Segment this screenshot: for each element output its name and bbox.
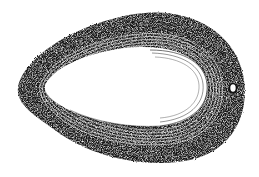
small-hole-icon bbox=[230, 84, 237, 93]
engraving-illustration bbox=[0, 0, 259, 177]
shell-engraving bbox=[0, 0, 259, 177]
